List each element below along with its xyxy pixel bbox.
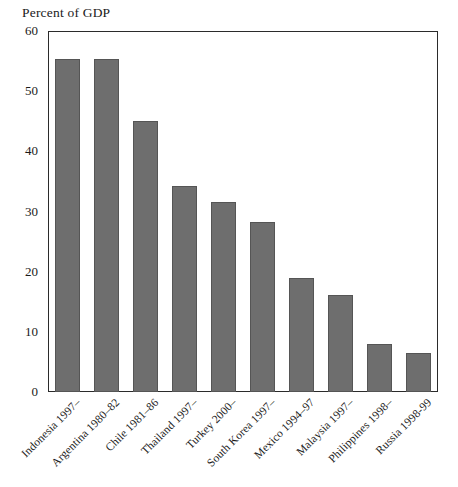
bar (211, 202, 235, 392)
y-axis: 0102030405060 (0, 0, 48, 487)
x-axis-tick-label-text: Philippines 1998– (323, 396, 394, 467)
bar (55, 59, 79, 392)
bar (289, 278, 313, 392)
y-axis-tick-label: 30 (25, 204, 38, 220)
bar (367, 344, 391, 392)
bars-container (48, 31, 438, 392)
y-axis-tick-label: 50 (25, 83, 38, 99)
bar-chart-figure: Percent of GDP 0102030405060 Indonesia 1… (0, 0, 458, 487)
x-axis-labels: Indonesia 1997–Argentina 1980–82Chile 19… (48, 392, 458, 487)
x-axis-tick-label-text: Argentina 1980–82 (46, 396, 121, 471)
bar (328, 295, 352, 392)
bar (172, 186, 196, 392)
bar (94, 59, 118, 392)
y-axis-tick-label: 60 (25, 23, 38, 39)
bar (250, 222, 274, 392)
x-axis-tick-label: South Korea 1997– (202, 396, 277, 471)
y-axis-tick-label: 40 (25, 143, 38, 159)
y-axis-tick-label: 10 (25, 324, 38, 340)
x-axis-tick-label-text: South Korea 1997– (202, 396, 277, 471)
x-axis-tick-label: Philippines 1998– (323, 396, 394, 467)
bar (406, 353, 430, 392)
y-axis-tick-label: 0 (32, 384, 39, 400)
x-axis-tick-label: Argentina 1980–82 (46, 396, 121, 471)
bar (133, 121, 157, 392)
y-axis-tick-label: 20 (25, 264, 38, 280)
